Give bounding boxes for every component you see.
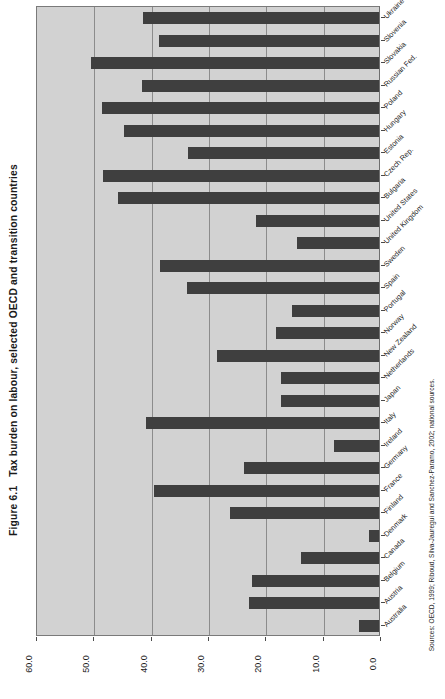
axis-tick-label-0.0: 0.0	[368, 644, 378, 684]
figure-page: Figure 6.1Tax burden on labour, selected…	[0, 0, 445, 699]
bar-row	[37, 345, 379, 368]
bar-row	[37, 525, 379, 548]
bar-poland[interactable]	[102, 102, 379, 114]
bar-belgium[interactable]	[252, 575, 379, 587]
axis-tick-label-40.0: 40.0	[139, 644, 149, 684]
axis-tick-30.0	[208, 637, 209, 641]
axis-tick-label-50.0: 50.0	[81, 644, 91, 684]
axis-tick-50.0	[93, 637, 94, 641]
figure-number: Figure 6.1	[8, 485, 19, 535]
source-note-container: Sources: OECD, 1999; Riboud, Silva-Jaure…	[418, 330, 444, 699]
bar-row	[37, 390, 379, 413]
bar-row	[37, 322, 379, 345]
axis-tick-10.0	[323, 637, 324, 641]
bar-portugal[interactable]	[292, 305, 379, 317]
category-label-hungary: Hungary	[382, 108, 408, 134]
bar-slovakia[interactable]	[91, 57, 379, 69]
bar-row	[37, 142, 379, 165]
bar-row	[37, 367, 379, 390]
bar-row	[37, 255, 379, 278]
bar-germany[interactable]	[244, 462, 379, 474]
axis-tick-label-10.0: 10.0	[311, 644, 321, 684]
page-title: Figure 6.1Tax burden on labour, selected…	[8, 164, 19, 536]
axis-tick-label-30.0: 30.0	[196, 644, 206, 684]
bar-row	[37, 210, 379, 233]
category-label-italy: Italy	[382, 410, 398, 426]
category-label-denmark: Denmark	[382, 511, 409, 538]
bar-row	[37, 615, 379, 638]
bar-row	[37, 435, 379, 458]
bar-ukraine[interactable]	[143, 12, 379, 24]
bar-row	[37, 412, 379, 435]
bar-czech-rep[interactable]	[103, 170, 379, 182]
bar-row	[37, 52, 379, 75]
bar-netherlands[interactable]	[281, 372, 379, 384]
bar-row	[37, 457, 379, 480]
bar-row	[37, 187, 379, 210]
bar-united-states[interactable]	[256, 215, 379, 227]
figure-title-text: Tax burden on labour, selected OECD and …	[8, 164, 19, 477]
category-label-portugal: Portugal	[382, 288, 408, 314]
bar-russian-fed[interactable]	[142, 80, 379, 92]
bar-slovenia[interactable]	[159, 35, 379, 47]
axis-tick-20.0	[265, 637, 266, 641]
bar-australia[interactable]	[359, 620, 379, 632]
bar-italy[interactable]	[146, 417, 379, 429]
bar-row	[37, 300, 379, 323]
bar-row	[37, 232, 379, 255]
bar-canada[interactable]	[301, 552, 379, 564]
category-label-sweden: Sweden	[382, 243, 407, 268]
bar-row	[37, 502, 379, 525]
bar-row	[37, 97, 379, 120]
bar-japan[interactable]	[281, 395, 379, 407]
bar-new-zealand[interactable]	[217, 350, 379, 362]
bar-row	[37, 165, 379, 188]
bar-spain[interactable]	[187, 282, 379, 294]
bar-norway[interactable]	[276, 327, 379, 339]
bar-row	[37, 547, 379, 570]
category-label-germany: Germany	[382, 443, 410, 471]
category-label-france: France	[382, 471, 404, 493]
category-label-canada: Canada	[382, 536, 406, 560]
bar-france[interactable]	[154, 485, 379, 497]
source-note: Sources: OECD, 1999; Riboud, Silva-Jaure…	[428, 378, 435, 651]
bar-row	[37, 7, 379, 30]
figure-title-container: Figure 6.1Tax burden on labour, selected…	[0, 0, 26, 699]
bar-finland[interactable]	[230, 507, 379, 519]
category-label-australia: Australia	[382, 602, 408, 628]
bar-estonia[interactable]	[188, 147, 379, 159]
bar-united-kingdom[interactable]	[297, 237, 379, 249]
bar-bulgaria[interactable]	[118, 192, 379, 204]
bar-hungary[interactable]	[124, 125, 379, 137]
category-label-japan: Japan	[382, 383, 402, 403]
category-label-slovenia: Slovenia	[382, 17, 408, 43]
category-label-belgium: Belgium	[382, 558, 407, 583]
bar-row	[37, 277, 379, 300]
axis-tick-0.0	[380, 637, 381, 641]
bar-sweden[interactable]	[160, 260, 379, 272]
axis-tick-label-60.0: 60.0	[24, 644, 34, 684]
bar-row	[37, 480, 379, 503]
bar-row	[37, 75, 379, 98]
bar-row	[37, 570, 379, 593]
chart-plot-area	[36, 6, 380, 636]
category-label-spain: Spain	[382, 271, 402, 291]
bar-austria[interactable]	[249, 597, 379, 609]
bar-denmark[interactable]	[369, 530, 379, 542]
bar-row	[37, 592, 379, 615]
axis-tick-40.0	[151, 637, 152, 641]
bar-row	[37, 30, 379, 53]
axis-tick-60.0	[36, 637, 37, 641]
bar-ireland[interactable]	[334, 440, 379, 452]
axis-tick-label-20.0: 20.0	[253, 644, 263, 684]
bar-row	[37, 120, 379, 143]
